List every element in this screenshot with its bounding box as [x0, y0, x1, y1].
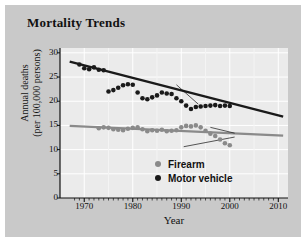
legend-item-firearm: Firearm: [155, 157, 232, 171]
y-tick-5: 5: [36, 168, 58, 178]
legend-label: Firearm: [168, 159, 205, 170]
y-axis-tick-labels: 051015202530: [33, 5, 58, 237]
x-tick-1990: 1990: [161, 201, 201, 211]
x-tick-2010: 2010: [258, 201, 298, 211]
y-tick-10: 10: [36, 144, 58, 154]
y-tick-20: 20: [36, 95, 58, 105]
x-axis-label: Year: [60, 214, 288, 226]
data-points: [77, 62, 232, 147]
y-axis-label-line1: Annual deaths: [19, 23, 31, 163]
figure-panel: Mortality Trends Annual deaths (per 100,…: [5, 5, 301, 237]
legend-marker-icon: [155, 175, 161, 181]
x-tick-1980: 1980: [113, 201, 153, 211]
y-tick-30: 30: [36, 47, 58, 57]
x-tick-1970: 1970: [64, 201, 104, 211]
y-tick-15: 15: [36, 119, 58, 129]
x-tick-2000: 2000: [210, 201, 250, 211]
legend-item-motor-vehicle: Motor vehicle: [155, 171, 232, 185]
chart-legend: FirearmMotor vehicle: [155, 157, 232, 185]
y-tick-0: 0: [36, 192, 58, 202]
legend-marker-icon: [155, 161, 161, 167]
y-tick-25: 25: [36, 71, 58, 81]
legend-label: Motor vehicle: [168, 173, 232, 184]
